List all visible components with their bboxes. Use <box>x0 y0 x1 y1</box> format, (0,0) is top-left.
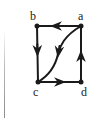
vertex-label-a: a <box>78 9 84 23</box>
edge-a-to-c-curved <box>38 26 81 82</box>
vertex-c <box>36 80 41 85</box>
vertex-d <box>79 80 84 85</box>
vertex-b <box>35 24 40 29</box>
directed-graph: a b c d <box>0 0 96 118</box>
vertex-label-d: d <box>81 85 87 99</box>
vertex-label-b: b <box>30 9 36 23</box>
graph-figure: a b c d <box>0 0 96 118</box>
vertex-a <box>79 24 84 29</box>
vertex-label-c: c <box>33 85 38 99</box>
edge-b-to-c <box>37 26 38 82</box>
arrowhead-a-to-c-icon <box>59 46 60 52</box>
